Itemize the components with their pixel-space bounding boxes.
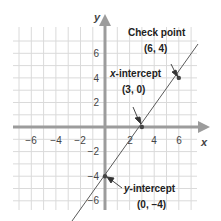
y-tick: 6 <box>93 48 99 59</box>
x-axis <box>13 121 210 133</box>
y-intercept-point <box>103 174 107 178</box>
y-intercept-arrowhead-icon <box>107 177 114 183</box>
x-tick: 4 <box>151 135 157 146</box>
x-tick: 6 <box>176 135 182 146</box>
x-tick: −4 <box>50 135 62 146</box>
check-point-title: Check point <box>128 27 186 38</box>
y-tick: 2 <box>93 97 99 108</box>
x-axis-label: x <box>200 136 208 148</box>
y-axis-arrow-icon <box>99 14 111 26</box>
x-intercept-suffix: -intercept <box>116 68 162 79</box>
y-intercept-title: y-intercept <box>123 183 176 194</box>
y-axis-label: y <box>93 11 101 23</box>
x-intercept-arrowhead-icon <box>135 117 141 124</box>
x-intercept-coords: (3, 0) <box>122 84 145 95</box>
y-tick: 4 <box>93 73 99 84</box>
x-tick: −6 <box>25 135 37 146</box>
x-tick: −2 <box>74 135 86 146</box>
x-intercept-point <box>140 125 144 129</box>
coordinate-plane: y x −6 −4 −2 2 4 6 6 4 2 −2 −4 −6 Check … <box>0 0 221 221</box>
x-axis-arrow-icon <box>198 121 210 133</box>
y-tick: −2 <box>88 146 100 157</box>
check-point-coords: (6, 4) <box>144 43 167 54</box>
y-intercept-suffix: -intercept <box>130 183 176 194</box>
y-intercept-coords: (0, −4) <box>137 199 166 210</box>
x-intercept-title: x-intercept <box>109 68 162 79</box>
y-tick: −4 <box>88 171 100 182</box>
